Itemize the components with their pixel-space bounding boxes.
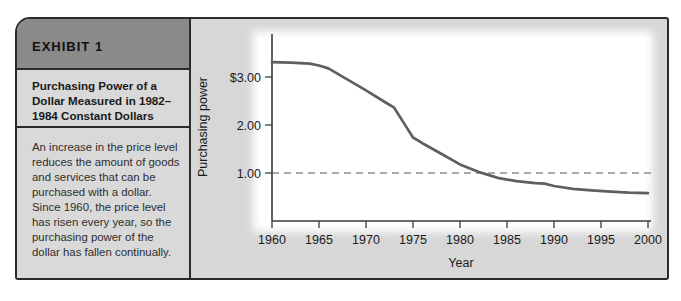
x-tick-label: 1990 <box>540 233 568 247</box>
x-tick-label: 1975 <box>399 233 427 247</box>
x-axis-title: Year <box>448 256 473 270</box>
x-tick-label: 1960 <box>258 233 286 247</box>
x-tick-label: 1980 <box>446 233 474 247</box>
x-tick-label: 1995 <box>587 233 615 247</box>
y-axis-title: Purchasing power <box>196 77 210 177</box>
exhibit-caption: An increase in the price level reduces t… <box>32 140 180 260</box>
y-tick-label: 2.00 <box>237 119 261 133</box>
exhibit-box: EXHIBIT 1 Purchasing Power of a Dollar M… <box>15 17 669 280</box>
chart-svg: $3.002.001.00196019651970197519801985199… <box>191 19 667 278</box>
page: EXHIBIT 1 Purchasing Power of a Dollar M… <box>0 0 681 301</box>
x-tick-label: 1985 <box>493 233 521 247</box>
x-tick-label: 2000 <box>634 233 662 247</box>
exhibit-caption-block: An increase in the price level reduces t… <box>17 128 189 278</box>
y-tick-label: 1.00 <box>237 167 261 181</box>
chart-pane: $3.002.001.00196019651970197519801985199… <box>191 19 667 278</box>
exhibit-title-block: Purchasing Power of a Dollar Measured in… <box>17 70 189 128</box>
x-tick-label: 1965 <box>305 233 333 247</box>
y-tick-label: $3.00 <box>230 71 261 85</box>
x-tick-label: 1970 <box>352 233 380 247</box>
exhibit-sidebar: EXHIBIT 1 Purchasing Power of a Dollar M… <box>17 19 191 278</box>
exhibit-number-label: EXHIBIT 1 <box>32 39 103 54</box>
exhibit-title: Purchasing Power of a Dollar Measured in… <box>32 78 179 123</box>
exhibit-header-band: EXHIBIT 1 <box>17 19 189 70</box>
